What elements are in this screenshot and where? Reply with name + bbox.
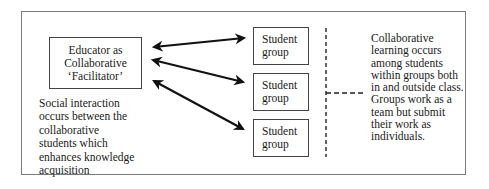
dashed-bracket-icon <box>326 28 364 157</box>
double-arrow-icon <box>154 81 243 129</box>
double-arrow-icon <box>153 60 243 82</box>
double-arrow-icon <box>154 38 244 47</box>
connector-layer <box>0 0 489 189</box>
